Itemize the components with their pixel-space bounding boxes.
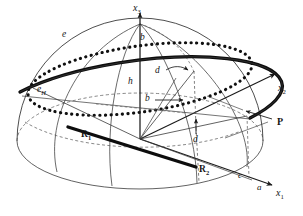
leader-p-aux <box>225 122 268 138</box>
coordinate-axes <box>140 13 275 185</box>
label-b-mid: b <box>145 94 150 104</box>
label-c: c <box>238 171 242 180</box>
axis-label-x1: x1 <box>276 188 284 201</box>
drop-line-right <box>247 116 249 178</box>
label-e-h: eH <box>37 85 46 96</box>
label-d-upper: d <box>155 66 160 76</box>
meridian-arcs <box>55 24 248 186</box>
label-b-top: b <box>140 33 145 43</box>
axis-x2-line <box>140 74 275 139</box>
label-h: h <box>128 77 133 87</box>
label-a: a <box>257 183 262 192</box>
construction-lines <box>22 71 252 180</box>
label-d-lower: d <box>193 135 198 145</box>
figure-canvas: x3 x2 x1 e eH b h d b d R1 R2 P c a <box>0 0 303 216</box>
label-r2: R2 <box>199 165 209 176</box>
label-r1: R1 <box>81 130 91 141</box>
label-p: P <box>277 117 283 127</box>
axis-label-x3: x3 <box>133 3 141 16</box>
axis-label-x2: x2 <box>278 83 286 96</box>
label-e: e <box>62 30 66 40</box>
arrow-d-upper <box>166 67 188 70</box>
